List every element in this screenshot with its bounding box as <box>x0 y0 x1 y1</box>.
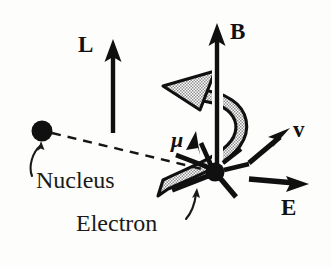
vector-v <box>249 128 290 163</box>
electron-spoke-lower-right <box>220 178 236 197</box>
precession-arrowhead <box>163 71 215 110</box>
vector-E <box>249 176 309 192</box>
electron-dot <box>206 163 225 182</box>
vector-mu-head <box>186 131 200 155</box>
vector-label-v: v <box>293 118 305 141</box>
electron-leader-curve <box>186 194 196 219</box>
vector-label-L: L <box>78 33 94 56</box>
nucleus-dot <box>32 121 53 142</box>
electron-spoke-right <box>224 164 249 170</box>
figure-canvas: L B μ v E Nucleus Electron <box>0 0 331 267</box>
diagram-svg <box>0 0 331 267</box>
vector-label-B: B <box>230 20 246 43</box>
electron-label: Electron <box>76 211 157 235</box>
electron-leader-arrow <box>186 188 200 219</box>
nucleus-label: Nucleus <box>36 168 115 192</box>
vector-label-mu: μ <box>171 129 183 151</box>
vector-L <box>105 39 122 133</box>
vector-label-E: E <box>281 196 297 219</box>
